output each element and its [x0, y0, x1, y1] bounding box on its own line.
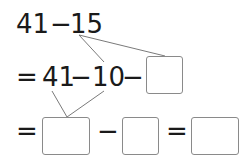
- minuend-41: 41: [16, 11, 49, 37]
- minus-sign: −: [50, 11, 72, 37]
- equals-sign: =: [166, 118, 188, 144]
- answer-box-ones[interactable]: [146, 56, 183, 94]
- minus-sign: −: [97, 118, 119, 144]
- minus-sign: −: [70, 64, 92, 90]
- equals-sign: =: [16, 118, 38, 144]
- equals-sign: =: [16, 64, 38, 90]
- answer-box-difference-1[interactable]: [42, 117, 90, 155]
- minus-sign: −: [122, 64, 144, 90]
- answer-box-result[interactable]: [191, 117, 239, 155]
- answer-box-subtrahend[interactable]: [122, 117, 159, 155]
- subtrahend-15: 15: [70, 11, 103, 37]
- number-10: 10: [92, 64, 125, 90]
